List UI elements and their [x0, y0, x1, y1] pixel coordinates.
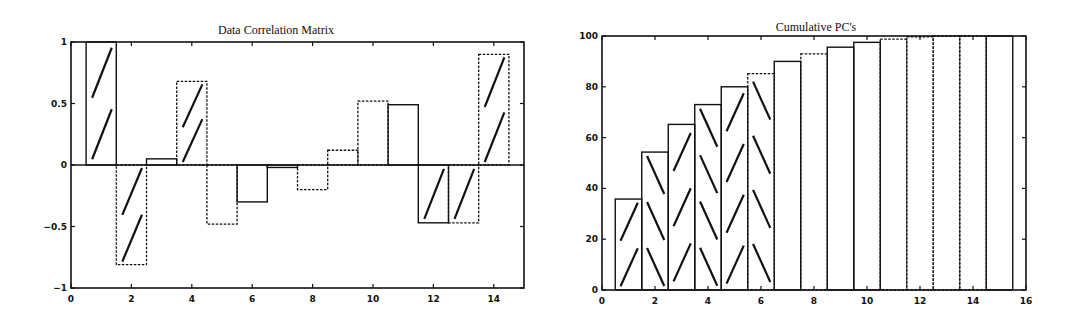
- plot-frame: [602, 36, 1026, 290]
- bar: [748, 74, 775, 290]
- x-tick-label: 6: [758, 296, 764, 306]
- hatch-stroke: [122, 168, 142, 215]
- bar: [177, 81, 207, 165]
- x-tick-label: 14: [488, 294, 501, 304]
- hatch-stroke: [92, 109, 112, 159]
- bar: [328, 150, 358, 165]
- hatch-stroke: [647, 248, 664, 286]
- bar: [986, 36, 1013, 290]
- y-tick-label: −0.5: [44, 222, 67, 232]
- hatch-stroke: [727, 195, 744, 233]
- y-tick-label: −1: [53, 283, 67, 293]
- chart-title: Data Correlation Matrix: [218, 23, 334, 37]
- x-tick-label: 2: [652, 296, 658, 306]
- x-tick-label: 10: [861, 296, 874, 306]
- y-tick-label: 0.5: [51, 99, 67, 109]
- bar: [854, 42, 881, 290]
- hatch-stroke: [753, 244, 770, 282]
- y-tick-label: 40: [585, 183, 598, 193]
- x-tick-label: 8: [309, 294, 315, 304]
- y-tick-label: 80: [585, 82, 598, 92]
- hatch-stroke: [700, 201, 717, 239]
- bar: [147, 159, 177, 165]
- cumulative-pc-bar-chart: Cumulative PC's 024681012141602040608010…: [579, 20, 1032, 306]
- axes-frame: 0246810121416020406080100: [579, 31, 1032, 306]
- correlation-bar-chart: Data Correlation Matrix 02468101214−1−0.…: [44, 23, 524, 304]
- hatch-stroke: [674, 243, 691, 281]
- bar: [907, 37, 934, 290]
- hatch-stroke: [92, 48, 112, 98]
- bar: [880, 39, 907, 290]
- bar: [960, 36, 987, 290]
- bar: [827, 47, 854, 290]
- chart-title: Cumulative PC's: [776, 20, 857, 34]
- hatch-stroke: [727, 144, 744, 182]
- hatch-stroke: [727, 246, 744, 284]
- x-tick-label: 2: [128, 294, 134, 304]
- bar: [237, 165, 267, 202]
- figure: Data Correlation Matrix 02468101214−1−0.…: [0, 0, 1073, 321]
- hatch-stroke: [647, 202, 664, 240]
- x-tick-label: 12: [914, 296, 927, 306]
- y-tick-label: 1: [61, 37, 67, 47]
- hatch-stroke: [424, 169, 444, 219]
- bars: [86, 42, 509, 265]
- bar: [388, 105, 418, 165]
- x-tick-label: 12: [427, 294, 440, 304]
- bar: [298, 165, 328, 190]
- hatch-stroke: [647, 156, 664, 194]
- hatch-stroke: [621, 203, 638, 241]
- hatch-stroke: [674, 188, 691, 226]
- bar: [933, 36, 960, 290]
- hatch-stroke: [674, 133, 691, 171]
- y-tick-label: 100: [579, 31, 598, 41]
- bar: [479, 54, 509, 165]
- hatch-stroke: [753, 136, 770, 174]
- hatch-stroke: [122, 215, 142, 262]
- hatch-stroke: [753, 190, 770, 228]
- hatch-stroke: [727, 93, 744, 131]
- bar: [774, 61, 801, 290]
- bar: [615, 199, 642, 290]
- x-tick-label: 0: [68, 294, 74, 304]
- hatch-stroke: [621, 248, 638, 286]
- hatch-stroke: [700, 109, 717, 147]
- hatch-stroke: [183, 84, 203, 127]
- bar: [695, 105, 722, 290]
- x-tick-label: 14: [967, 296, 980, 306]
- bar: [86, 42, 116, 165]
- hatch-stroke: [485, 57, 505, 107]
- hatch-stroke: [485, 112, 505, 162]
- y-tick-label: 0: [592, 285, 598, 295]
- hatch-stroke: [455, 169, 475, 219]
- hatch-stroke: [753, 82, 770, 120]
- bars: [615, 36, 1013, 290]
- hatch-stroke: [183, 119, 203, 162]
- y-tick-label: 60: [585, 133, 598, 143]
- x-tick-label: 0: [599, 296, 605, 306]
- x-tick-label: 6: [249, 294, 255, 304]
- hatch-stroke: [700, 155, 717, 193]
- bar: [801, 54, 828, 290]
- bar: [207, 165, 237, 224]
- axes-frame: 02468101214−1−0.500.51: [44, 37, 524, 304]
- x-tick-label: 8: [811, 296, 817, 306]
- bar: [358, 101, 388, 165]
- y-tick-label: 20: [585, 234, 598, 244]
- bar: [721, 87, 748, 290]
- x-tick-label: 4: [189, 294, 195, 304]
- x-tick-label: 4: [705, 296, 711, 306]
- y-tick-label: 0: [61, 160, 67, 170]
- hatch-stroke: [700, 248, 717, 286]
- x-tick-label: 10: [367, 294, 380, 304]
- x-tick-label: 16: [1020, 296, 1033, 306]
